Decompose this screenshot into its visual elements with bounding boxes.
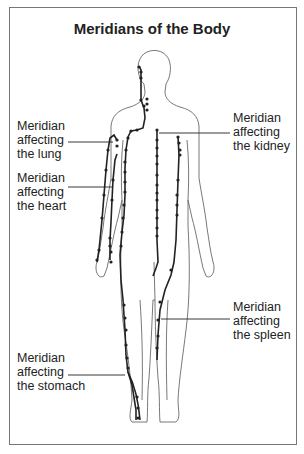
- leader-lines: [68, 133, 230, 375]
- meridian-points: [95, 65, 181, 419]
- body-outline: [96, 50, 214, 422]
- body-figure: [0, 0, 304, 454]
